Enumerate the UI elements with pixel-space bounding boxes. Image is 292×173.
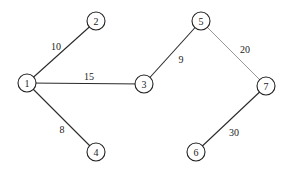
edge-weight-3-5: 9 — [179, 54, 184, 65]
node-2: 2 — [87, 12, 105, 30]
edge-weight-1-4: 8 — [60, 124, 65, 135]
node-label: 7 — [264, 81, 269, 92]
nodes-group: 1234567 — [18, 12, 275, 161]
edge-5-7 — [201, 21, 266, 86]
node-label: 5 — [199, 16, 204, 27]
node-label: 3 — [142, 79, 147, 90]
edge-3-5 — [144, 21, 201, 84]
node-3: 3 — [135, 75, 153, 93]
edge-1-4 — [27, 83, 96, 152]
edge-weight-7-6: 30 — [229, 127, 239, 138]
node-4: 4 — [87, 143, 105, 161]
node-label: 4 — [94, 147, 99, 158]
node-label: 1 — [25, 78, 30, 89]
edge-7-6 — [196, 86, 266, 152]
graph-canvas: 1015892030 1234567 — [0, 0, 292, 173]
edge-weight-1-2: 10 — [51, 41, 61, 52]
edge-weight-5-7: 20 — [240, 44, 250, 55]
edge-weight-1-3: 15 — [84, 71, 94, 82]
node-1: 1 — [18, 74, 36, 92]
node-5: 5 — [192, 12, 210, 30]
node-label: 2 — [94, 16, 99, 27]
node-7: 7 — [257, 77, 275, 95]
edge-1-3 — [27, 83, 144, 84]
node-label: 6 — [194, 147, 199, 158]
node-6: 6 — [187, 143, 205, 161]
